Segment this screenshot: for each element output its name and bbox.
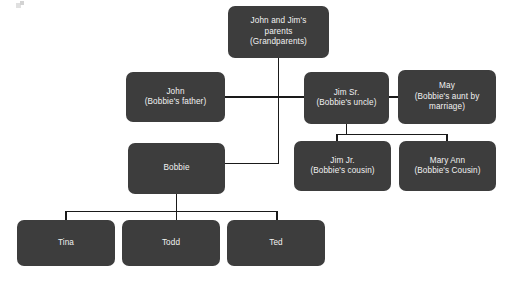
node-jim-jr-line-1: Jim Jr. — [330, 156, 354, 167]
connector-grandparents-to-bobbie — [225, 58, 279, 164]
connector-bobbie-to-ted — [177, 212, 278, 221]
node-jim-sr-line-2: (Bobbie's uncle) — [316, 98, 376, 109]
connector-jim-sr-to-jim-jr — [337, 124, 347, 141]
node-bobbie[interactable]: Bobbie — [128, 143, 225, 194]
node-ted-line-1: Ted — [269, 238, 283, 249]
node-jim-sr-line-1: Jim Sr. — [334, 88, 360, 99]
family-tree-diagram: John and Jim's parents (Grandparents) Jo… — [0, 0, 509, 285]
node-may-line-2: (Bobbie's aunt by — [415, 92, 480, 103]
artifact-shape-right — [20, 1, 24, 5]
connector-bobbie-to-tina — [66, 194, 177, 220]
node-grandparents[interactable]: John and Jim's parents (Grandparents) — [228, 6, 329, 58]
node-mary-ann-line-1: Mary Ann — [430, 156, 465, 167]
node-tina[interactable]: Tina — [17, 220, 115, 266]
node-jim-jr[interactable]: Jim Jr. (Bobbie's cousin) — [294, 141, 391, 191]
node-mary-ann[interactable]: Mary Ann (Bobbie's Cousin) — [399, 141, 496, 191]
node-bobbie-line-1: Bobbie — [163, 163, 189, 174]
node-jim-jr-line-2: (Bobbie's cousin) — [310, 166, 374, 177]
node-may-line-1: May — [439, 81, 455, 92]
node-may[interactable]: May (Bobbie's aunt by marriage) — [398, 70, 496, 124]
node-grandparents-line-3: (Grandparents) — [250, 37, 307, 48]
node-john-line-2: (Bobbie's father) — [145, 97, 207, 108]
node-may-line-3: marriage) — [429, 102, 465, 113]
node-todd[interactable]: Todd — [122, 220, 220, 266]
node-mary-ann-line-2: (Bobbie's Cousin) — [414, 166, 480, 177]
page-corner-artifact — [16, 1, 25, 9]
node-tina-line-1: Tina — [58, 238, 74, 249]
node-jim-sr[interactable]: Jim Sr. (Bobbie's uncle) — [304, 72, 389, 124]
node-john-line-1: John — [166, 87, 184, 98]
node-john[interactable]: John (Bobbie's father) — [126, 72, 225, 122]
node-grandparents-line-1: John and Jim's — [251, 16, 307, 27]
node-grandparents-line-2: parents — [264, 27, 292, 38]
node-ted[interactable]: Ted — [227, 220, 325, 266]
node-todd-line-1: Todd — [162, 238, 180, 249]
